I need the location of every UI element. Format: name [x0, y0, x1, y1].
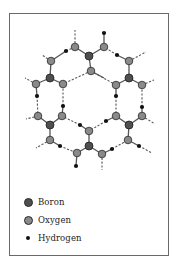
legend-item-boron: Boron [22, 193, 82, 211]
legend-item-hydrogen: Hydrogen [22, 229, 82, 247]
legend-label: Oxygen [38, 215, 71, 225]
legend-item-oxygen: Oxygen [22, 211, 82, 229]
legend-label: Boron [38, 197, 65, 207]
boron-swatch-icon [22, 198, 34, 207]
hydrogen-swatch-icon [22, 236, 34, 241]
legend-label: Hydrogen [38, 233, 82, 243]
oxygen-swatch-icon [22, 216, 34, 225]
legend: Boron Oxygen Hydrogen [22, 193, 82, 247]
